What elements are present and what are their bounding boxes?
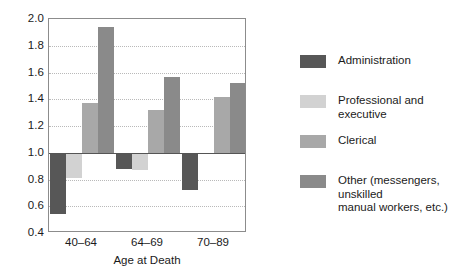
x-tick-label: 70–89 — [197, 236, 229, 248]
y-axis-tick-labels: 2.01.81.61.41.21.00.80.60.4 — [8, 18, 44, 232]
bar — [182, 153, 198, 190]
y-tick-label: 1.4 — [28, 92, 44, 104]
legend-item: Other (messengers, unskilled manual work… — [300, 174, 468, 215]
bar — [214, 97, 230, 153]
legend-swatch — [300, 135, 326, 148]
bar — [230, 83, 246, 153]
legend-swatch — [300, 95, 326, 108]
baseline-gridline — [49, 153, 245, 154]
bar — [116, 153, 132, 169]
bar — [98, 27, 114, 153]
legend-label: Clerical — [338, 134, 376, 148]
legend-item: Clerical — [300, 134, 376, 148]
chart-region: 2.01.81.61.41.21.00.80.60.4 40–6464–6970… — [8, 6, 288, 268]
plot-area — [48, 18, 246, 232]
legend-item: Administration — [300, 54, 411, 68]
legend-label: Other (messengers, unskilled manual work… — [338, 174, 468, 215]
bar — [132, 153, 148, 170]
bar — [164, 77, 180, 153]
legend-item: Professional and executive — [300, 94, 468, 121]
y-tick-label: 1.8 — [28, 39, 44, 51]
bar — [50, 153, 66, 215]
y-tick-label: 0.6 — [28, 199, 44, 211]
bar — [82, 103, 98, 152]
y-tick-label: 1.0 — [28, 146, 44, 158]
y-tick-label: 0.4 — [28, 226, 44, 238]
legend-label: Administration — [338, 54, 411, 68]
x-axis-tick-labels: 40–6464–6970–89 — [48, 236, 246, 252]
legend-label: Professional and executive — [338, 94, 468, 121]
y-tick-label: 1.2 — [28, 119, 44, 131]
bar — [66, 153, 82, 178]
y-tick-label: 0.8 — [28, 173, 44, 185]
y-tick-label: 2.0 — [28, 12, 44, 24]
x-tick-label: 40–64 — [65, 236, 97, 248]
x-axis-title: Age at Death — [48, 254, 246, 266]
legend-swatch — [300, 55, 326, 68]
x-tick-label: 64–69 — [131, 236, 163, 248]
bar — [148, 110, 164, 153]
figure: 2.01.81.61.41.21.00.80.60.4 40–6464–6970… — [0, 0, 472, 275]
y-tick-label: 1.6 — [28, 66, 44, 78]
bars-layer — [49, 19, 245, 231]
legend-swatch — [300, 175, 326, 188]
